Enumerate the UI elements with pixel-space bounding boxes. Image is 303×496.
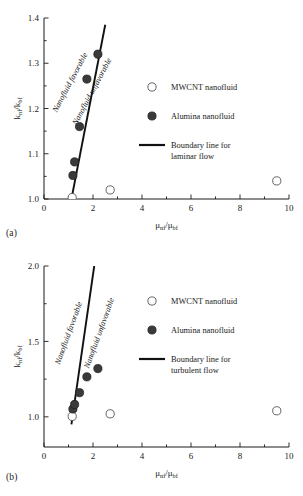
- x-tick-label: 6: [189, 451, 194, 461]
- x-tick-label: 8: [238, 203, 243, 213]
- legend-label: MWCNT nanofluid: [171, 297, 238, 306]
- data-point: [106, 410, 114, 418]
- y-tick-label: 1.2: [28, 104, 39, 114]
- y-tick-label: 1.4: [28, 13, 40, 23]
- y-axis-tick-labels: 1.01.52.0: [28, 261, 40, 422]
- data-point: [69, 171, 77, 179]
- data-point: [94, 50, 102, 58]
- x-tick-label: 4: [140, 203, 145, 213]
- x-tick-label: 2: [91, 203, 96, 213]
- panel-label-a: (a): [6, 228, 17, 238]
- chart-panel-a: 02468101.01.11.21.31.4μnf/μbfknf/kbfNano…: [0, 0, 303, 248]
- legend: MWCNT nanofluidAlumina nanofluidBoundary…: [139, 83, 238, 161]
- x-axis-title: μnf/μbf: [155, 220, 179, 231]
- data-point: [94, 364, 102, 372]
- data-point: [71, 400, 79, 408]
- x-tick-label: 6: [189, 203, 194, 213]
- x-axis-title: μnf/μbf: [155, 468, 179, 479]
- y-tick-label: 1.3: [28, 58, 40, 68]
- legend-label: Boundary line for: [171, 141, 231, 150]
- legend-marker-filled-circle: [148, 112, 156, 120]
- data-point: [273, 177, 281, 185]
- x-tick-label: 0: [42, 203, 47, 213]
- legend-marker-open-circle: [148, 83, 156, 91]
- y-axis-tick-labels: 1.01.11.21.31.4: [28, 13, 40, 204]
- plot-area: Nanofluid favorableNanofluid unfavorable: [50, 25, 281, 202]
- y-tick-label: 1.0: [28, 194, 40, 204]
- data-point: [273, 407, 281, 415]
- panel-label-b: (b): [6, 472, 18, 482]
- data-point: [83, 373, 91, 381]
- x-axis-ticks: [44, 195, 289, 200]
- data-point: [75, 389, 83, 397]
- chart-panel-b: 02468101.01.52.0μnf/μbfknf/kbfNanofluid …: [0, 248, 303, 496]
- data-point: [106, 186, 114, 194]
- y-tick-label: 1.0: [28, 412, 40, 422]
- x-axis-tick-labels: 0246810: [42, 203, 294, 213]
- x-axis-tick-labels: 0246810: [42, 451, 294, 461]
- data-point: [75, 123, 83, 131]
- y-axis-ticks: [44, 266, 49, 417]
- legend: MWCNT nanofluidAlumina nanofluidBoundary…: [139, 297, 238, 375]
- x-tick-label: 8: [238, 451, 243, 461]
- legend-label: Alumina nanofluid: [171, 112, 235, 121]
- x-tick-label: 10: [285, 203, 295, 213]
- data-point: [71, 158, 79, 166]
- legend-label: laminar flow: [171, 152, 215, 161]
- y-axis-ticks: [44, 18, 49, 199]
- annotation-label: Nanofluid unfavorable: [82, 296, 116, 370]
- x-axis-ticks: [44, 443, 289, 448]
- x-tick-label: 10: [285, 451, 295, 461]
- legend-label: turbulent flow: [171, 366, 220, 375]
- data-point: [68, 194, 76, 202]
- data-point: [83, 75, 91, 83]
- series-alumina: [69, 364, 102, 413]
- scatter-plot-a: 02468101.01.11.21.31.4μnf/μbfknf/kbfNano…: [0, 0, 303, 248]
- y-tick-label: 2.0: [28, 261, 40, 271]
- y-tick-label: 1.1: [28, 149, 39, 159]
- y-tick-label: 1.5: [28, 337, 40, 347]
- y-axis-title: knf/kbf: [12, 345, 23, 368]
- data-point: [68, 412, 76, 420]
- x-tick-label: 4: [140, 451, 145, 461]
- series-mwcnt: [68, 177, 281, 202]
- series-mwcnt: [68, 407, 281, 421]
- legend-label: Boundary line for: [171, 355, 231, 364]
- legend-label: Alumina nanofluid: [171, 326, 235, 335]
- legend-label: MWCNT nanofluid: [171, 83, 238, 92]
- scatter-plot-b: 02468101.01.52.0μnf/μbfknf/kbfNanofluid …: [0, 248, 303, 496]
- plot-area: Nanofluid favorableNanofluid unfavorable: [53, 266, 281, 424]
- x-tick-label: 2: [91, 451, 96, 461]
- x-tick-label: 0: [42, 451, 47, 461]
- annotation-label: Nanofluid favorable: [53, 300, 85, 367]
- y-axis-title: knf/kbf: [12, 97, 23, 120]
- legend-marker-filled-circle: [148, 326, 156, 334]
- legend-marker-open-circle: [148, 297, 156, 305]
